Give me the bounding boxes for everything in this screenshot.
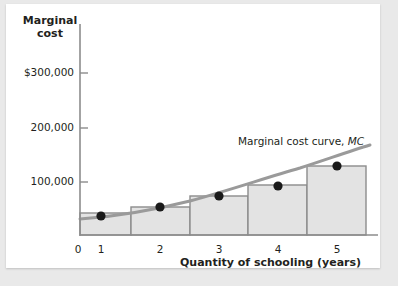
- curve-annotation: Marginal cost curve, MC: [238, 135, 364, 147]
- bar-4: [248, 185, 307, 235]
- x-tick-label-4: 4: [265, 243, 291, 255]
- data-point-2: [155, 202, 164, 211]
- y-axis-title: Marginal cost: [18, 14, 82, 40]
- bar-series: [80, 166, 366, 235]
- x-tick-label-3: 3: [206, 243, 232, 255]
- x-tick-label-2: 2: [147, 243, 173, 255]
- y-tick-label-100000: 100,000: [8, 175, 74, 187]
- figure-root: Marginal cost $300,000 200,000 100,000 0…: [0, 0, 398, 286]
- x-tick-label-5: 5: [324, 243, 350, 255]
- data-point-4: [273, 181, 282, 190]
- data-point-5: [332, 161, 341, 170]
- bar-3: [190, 196, 248, 235]
- y-axis-title-line1: Marginal: [18, 14, 82, 27]
- data-point-1: [96, 211, 105, 220]
- bar-5: [307, 166, 366, 235]
- curve-annotation-italic: MC: [348, 135, 364, 147]
- x-axis-title: Quantity of schooling (years): [180, 256, 361, 269]
- curve-annotation-text: Marginal cost curve,: [238, 135, 348, 147]
- data-point-3: [214, 191, 223, 200]
- y-axis-title-line2: cost: [18, 27, 82, 40]
- y-tick-label-300000: $300,000: [8, 66, 74, 78]
- y-axis-ticks: [80, 73, 88, 182]
- y-tick-label-200000: 200,000: [8, 121, 74, 133]
- x-tick-label-1: 1: [88, 243, 114, 255]
